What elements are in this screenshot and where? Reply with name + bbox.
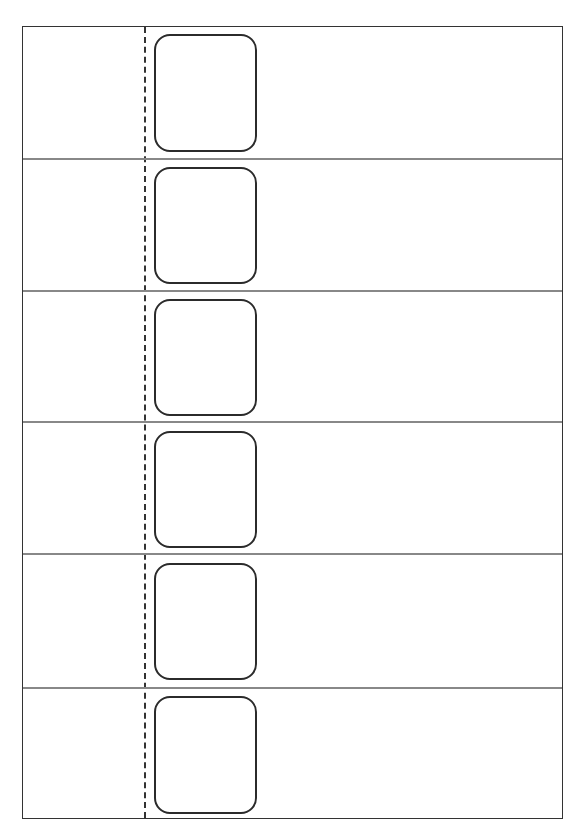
rounded-card-4 [154,431,257,548]
template-sheet [22,26,563,819]
row-divider [23,290,562,292]
rounded-card-2 [154,167,257,284]
row-divider [23,158,562,160]
row-divider [23,421,562,423]
row-divider [23,553,562,555]
row-divider [23,687,562,689]
rounded-card-3 [154,299,257,416]
rounded-card-1 [154,34,257,152]
rounded-card-6 [154,696,257,814]
rounded-card-5 [154,563,257,680]
